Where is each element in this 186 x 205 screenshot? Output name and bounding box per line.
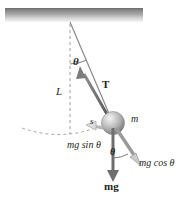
angle-label-theta-bottom: θ: [110, 147, 115, 157]
pendulum-free-body-diagram: θ L T m s mg sin θ θ mg cos θ mg: [0, 0, 186, 205]
length-label-L: L: [56, 86, 62, 97]
arc-length-label-s: s: [90, 117, 94, 126]
radial-force-label: mg cos θ: [139, 158, 174, 168]
mass-label-m: m: [131, 114, 138, 124]
diagram-canvas: [0, 0, 186, 205]
tangential-force-label: mg sin θ: [67, 140, 101, 150]
tangential-component-vector: [86, 121, 103, 130]
ceiling-support: [5, 8, 143, 22]
swing-path-arc: [22, 126, 100, 135]
pendulum-string: [70, 22, 113, 123]
radial-component-vector: [116, 128, 141, 166]
tension-label-T: T: [102, 79, 109, 90]
angle-arc-bob: [113, 154, 128, 158]
angle-label-theta-top: θ: [73, 56, 79, 67]
weight-label-mg: mg: [104, 181, 119, 192]
